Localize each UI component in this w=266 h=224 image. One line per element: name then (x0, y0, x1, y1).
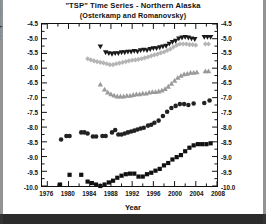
y-tick-label-right-7: -8.0 (221, 124, 261, 131)
y-tick-label-left-4: -6.5 (2, 79, 38, 86)
series-deadhorse (59, 98, 212, 141)
window-left-border (0, 0, 3, 224)
y-tick-label-left-6: -7.5 (2, 109, 38, 116)
series-galbraith-lake (85, 41, 211, 67)
y-tick-label-right-8: -8.5 (221, 139, 261, 146)
y-tick-label-right-0: -4.5 (221, 20, 261, 27)
window-right-border (263, 0, 266, 224)
window-bottom-border (0, 214, 266, 224)
y-tick-label-right-9: -9.0 (221, 154, 261, 161)
y-tick-label-left-8: -8.5 (2, 139, 38, 146)
data-points-layer (42, 24, 217, 186)
series-west-dock (58, 141, 213, 188)
x-axis-label: Year (0, 203, 266, 212)
y-tick-label-left-10: -9.5 (2, 169, 38, 176)
y-tick-label-right-2: -5.5 (221, 49, 261, 56)
y-tick-label-left-5: -7.0 (2, 94, 38, 101)
y-tick-label-right-1: -5.0 (221, 35, 261, 42)
y-tick-label-left-0: -4.5 (2, 20, 38, 27)
y-tick-label-right-6: -7.5 (221, 109, 261, 116)
y-tick-label-right-10: -9.5 (221, 169, 261, 176)
y-tick-label-right-3: -6.0 (221, 64, 261, 71)
y-tick-label-left-3: -6.0 (2, 64, 38, 71)
y-tick-label-left-9: -9.0 (2, 154, 38, 161)
plot-area (41, 23, 218, 187)
y-tick-label-left-7: -8.0 (2, 124, 38, 131)
y-tick-label-left-1: -5.0 (2, 35, 38, 42)
y-tick-label-right-4: -6.5 (221, 79, 261, 86)
y-tick-label-left-2: -5.5 (2, 49, 38, 56)
chart-figure: "TSP" Time Series - Northern Alaska (Ost… (0, 0, 266, 218)
chart-title-line1: "TSP" Time Series - Northern Alaska (0, 1, 266, 10)
series-franklin-bluffs (98, 69, 212, 99)
y-tick-label-right-5: -7.0 (221, 94, 261, 101)
x-tick-label-8: 2008 (203, 190, 233, 197)
